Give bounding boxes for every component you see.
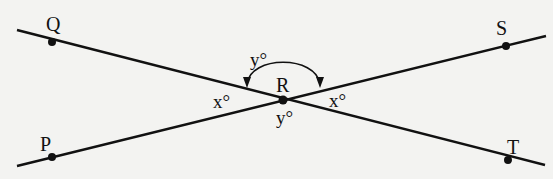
label-p: P xyxy=(40,133,51,155)
label-s: S xyxy=(496,17,507,39)
angle-label-left: x° xyxy=(213,91,230,112)
intersecting-lines-figure: Q S P T R x° x° y° y° xyxy=(0,0,553,179)
point-q xyxy=(48,38,56,46)
label-r: R xyxy=(276,74,290,96)
label-q: Q xyxy=(46,13,61,35)
angle-label-bottom: y° xyxy=(276,107,293,128)
angle-label-top: y° xyxy=(250,49,267,70)
diagram-canvas: Q S P T R x° x° y° y° xyxy=(0,0,553,179)
arc-arrow-left-icon xyxy=(243,77,251,88)
angle-label-right: x° xyxy=(329,90,346,111)
point-r xyxy=(279,96,288,105)
label-t: T xyxy=(507,136,519,158)
arc-arrow-right-icon xyxy=(316,77,324,88)
point-s xyxy=(502,42,510,50)
